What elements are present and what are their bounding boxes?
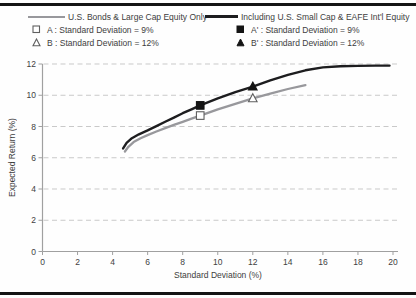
legend-item-line-gray: U.S. Bonds & Large Cap Equity Only <box>28 10 207 23</box>
legend-column-incl-small-cap: Including U.S. Small Cap & EAFE Int'l Eq… <box>205 10 409 49</box>
filled-triangle-icon <box>236 38 245 47</box>
legend-label: B' : Standard Deviation = 12% <box>251 38 364 48</box>
y-tick-label: 0 <box>31 247 36 257</box>
open-square-icon <box>32 25 41 34</box>
x-tick-label: 14 <box>283 257 293 267</box>
gray-line-sample-icon <box>28 16 65 18</box>
y-tick-label: 12 <box>27 59 37 69</box>
y-tick-label: 4 <box>31 184 36 194</box>
y-tick-label: 6 <box>31 153 36 163</box>
bottom-border-rule <box>0 292 416 295</box>
y-tick-label: 8 <box>31 122 36 132</box>
legend-label: A' : Standard Deviation = 9% <box>251 25 360 35</box>
y-tick-label: 2 <box>31 215 36 225</box>
y-axis-title: Expected Return (%) <box>6 64 18 252</box>
legend-label: A : Standard Deviation = 9% <box>47 25 154 35</box>
x-tick-label: 0 <box>40 257 45 267</box>
x-axis-title: Standard Deviation (%) <box>43 270 393 280</box>
legend-label: Including U.S. Small Cap & EAFE Int'l Eq… <box>241 12 409 22</box>
filled-square-icon <box>236 25 245 34</box>
legend-label: U.S. Bonds & Large Cap Equity Only <box>68 12 207 22</box>
legend-label: B : Standard Deviation = 12% <box>47 38 159 48</box>
x-tick-label: 16 <box>318 257 328 267</box>
x-tick-label: 6 <box>145 257 150 267</box>
legend-column-bonds-large-cap: U.S. Bonds & Large Cap Equity Only A : S… <box>28 10 207 49</box>
x-tick-label: 4 <box>110 257 115 267</box>
x-tick-label: 10 <box>213 257 223 267</box>
figure: 02468101202468101214161820 U.S. Bonds & … <box>0 0 416 298</box>
x-tick-label: 20 <box>388 257 398 267</box>
x-tick-label: 12 <box>248 257 258 267</box>
legend-item-marker-b: B : Standard Deviation = 12% <box>28 36 207 49</box>
legend-item-marker-a: A : Standard Deviation = 9% <box>28 23 207 36</box>
x-tick-label: 18 <box>353 257 363 267</box>
marker-A-prime <box>196 102 204 110</box>
open-triangle-icon <box>32 38 41 47</box>
x-tick-label: 2 <box>75 257 80 267</box>
legend-item-marker-b-prime: B' : Standard Deviation = 12% <box>205 36 409 49</box>
marker-A <box>196 112 204 120</box>
y-tick-label: 10 <box>27 90 37 100</box>
legend-item-marker-a-prime: A' : Standard Deviation = 9% <box>205 23 409 36</box>
x-tick-label: 8 <box>180 257 185 267</box>
legend-item-line-black: Including U.S. Small Cap & EAFE Int'l Eq… <box>205 10 409 23</box>
black-line-sample-icon <box>205 15 238 18</box>
series-line-1 <box>123 66 389 149</box>
